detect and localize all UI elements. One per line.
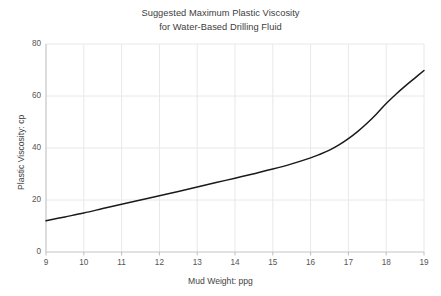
x-axis-title: Mud Weight: ppg bbox=[0, 276, 441, 286]
x-tick-marks bbox=[46, 252, 424, 256]
y-tick-label: 0 bbox=[12, 247, 41, 256]
x-tick-label: 12 bbox=[144, 258, 174, 267]
y-tick-label: 80 bbox=[12, 39, 41, 48]
x-tick-label: 16 bbox=[296, 258, 326, 267]
y-axis-title: Plastic Viscosity: cp bbox=[16, 115, 26, 190]
x-tick-label: 19 bbox=[409, 258, 439, 267]
x-tick-label: 17 bbox=[333, 258, 363, 267]
y-tick-label: 20 bbox=[12, 195, 41, 204]
x-tick-label: 18 bbox=[371, 258, 401, 267]
x-tick-label: 15 bbox=[258, 258, 288, 267]
plot-area bbox=[0, 0, 441, 296]
x-tick-label: 11 bbox=[107, 258, 137, 267]
x-tick-label: 10 bbox=[69, 258, 99, 267]
chart-figure: Suggested Maximum Plastic Viscosityfor W… bbox=[0, 0, 441, 296]
x-tick-label: 14 bbox=[220, 258, 250, 267]
x-tick-label: 13 bbox=[182, 258, 212, 267]
x-tick-label: 9 bbox=[31, 258, 61, 267]
y-tick-label: 60 bbox=[12, 91, 41, 100]
